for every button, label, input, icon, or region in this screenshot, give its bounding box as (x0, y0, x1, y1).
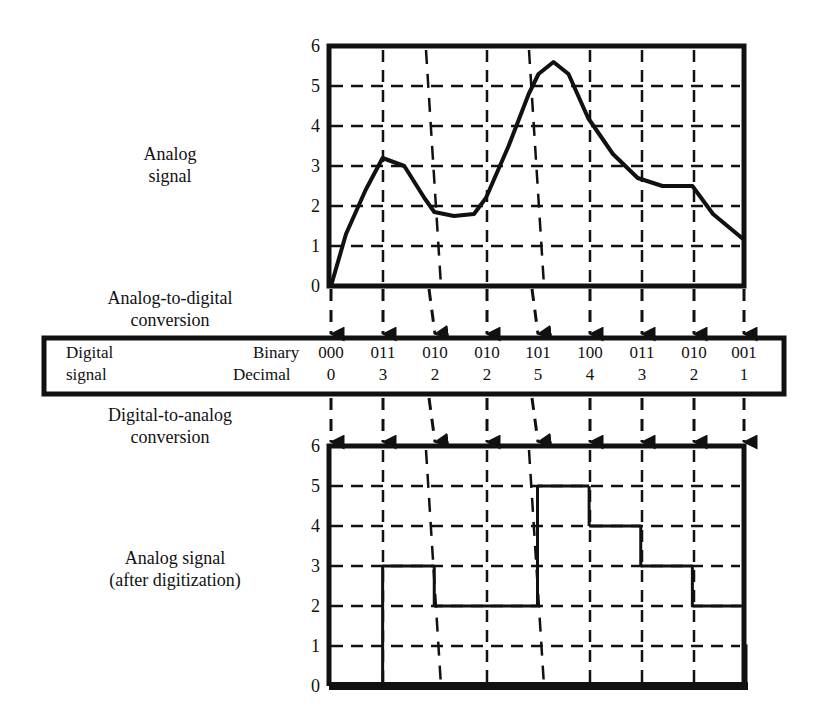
binary-value: 101 (518, 342, 558, 364)
y-tick-2: 2 (311, 196, 320, 216)
analog-signal-label-line1: Analog (110, 143, 230, 165)
bottom-chart-grid (331, 450, 740, 686)
decimal-value: 5 (518, 364, 558, 386)
binary-value: 000 (311, 342, 351, 364)
top-chart-y-axis: 0123456 (311, 36, 320, 296)
y-tick-2: 2 (311, 596, 320, 616)
dac-label-line2: conversion (80, 426, 260, 448)
digital-signal-label-line1: Digital (66, 342, 113, 364)
binary-value: 010 (467, 342, 507, 364)
decimal-value: 1 (724, 364, 764, 386)
after-digitization-label: Analog signal (after digitization) (80, 547, 270, 591)
decimal-value: 2 (415, 364, 455, 386)
adc-label-line1: Analog-to-digital (80, 287, 260, 309)
y-tick-5: 5 (311, 76, 320, 96)
adc-label: Analog-to-digital conversion (80, 287, 260, 331)
decimal-value: 3 (622, 364, 662, 386)
after-label-line1: Analog signal (80, 547, 270, 569)
dac-label: Digital-to-analog conversion (80, 404, 260, 448)
binary-value: 010 (674, 342, 714, 364)
digitized-step-curve (331, 486, 746, 686)
decimal-row-label: Decimal (233, 364, 299, 386)
y-tick-4: 4 (311, 116, 320, 136)
y-tick-1: 1 (311, 236, 320, 256)
digitized-signal-chart: 0123456 (311, 436, 748, 696)
analog-signal-label-line2: signal (110, 165, 230, 187)
dac-arrows (331, 398, 744, 442)
binary-value: 100 (570, 342, 610, 364)
y-tick-3: 3 (311, 156, 320, 176)
decimal-value: 2 (467, 364, 507, 386)
digital-signal-box (44, 338, 784, 394)
y-tick-6: 6 (311, 436, 320, 456)
y-tick-1: 1 (311, 636, 320, 656)
adc-arrows (331, 289, 744, 334)
digital-signal-label: Digital signal (66, 342, 113, 386)
after-label-line2: (after digitization) (80, 569, 270, 591)
decimal-value: 0 (311, 364, 351, 386)
analog-signal-chart: 0123456 (311, 36, 744, 296)
y-tick-6: 6 (311, 36, 320, 56)
binary-row-label: Binary (233, 342, 299, 364)
binary-value: 001 (724, 342, 764, 364)
analog-signal-label: Analog signal (110, 143, 230, 187)
digital-signal-label-line2: signal (66, 364, 113, 386)
decimal-value: 4 (570, 364, 610, 386)
binary-value: 011 (363, 342, 403, 364)
y-tick-3: 3 (311, 556, 320, 576)
y-tick-5: 5 (311, 476, 320, 496)
bottom-chart-y-axis: 0123456 (311, 436, 320, 696)
y-tick-0: 0 (311, 276, 320, 296)
y-tick-4: 4 (311, 516, 320, 536)
binary-value: 011 (622, 342, 662, 364)
adc-label-line2: conversion (80, 309, 260, 331)
y-tick-0: 0 (311, 676, 320, 696)
top-chart-grid (331, 50, 740, 286)
binary-value: 010 (415, 342, 455, 364)
decimal-value: 2 (674, 364, 714, 386)
dac-label-line1: Digital-to-analog (80, 404, 260, 426)
decimal-value: 3 (363, 364, 403, 386)
row-labels: Binary Decimal (233, 342, 299, 386)
